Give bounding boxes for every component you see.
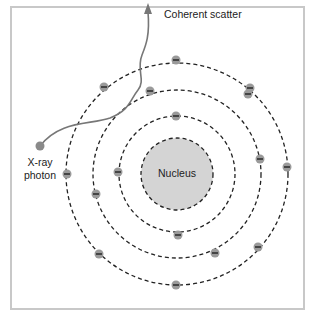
photon-label-line1: X-ray bbox=[22, 156, 58, 168]
electron-icon bbox=[100, 83, 109, 92]
electron-icon bbox=[95, 250, 104, 259]
electron-icon bbox=[246, 84, 255, 93]
scatter-label: Coherent scatter bbox=[164, 8, 242, 20]
electron-icon bbox=[92, 190, 101, 199]
photon-label-line2: photon bbox=[18, 169, 62, 181]
electron-icon bbox=[254, 243, 263, 252]
nucleus-label: Nucleus bbox=[150, 167, 204, 179]
electron-icon bbox=[172, 56, 181, 65]
electron-icon bbox=[283, 163, 292, 172]
electron-icon bbox=[211, 249, 220, 258]
electron-icon bbox=[63, 170, 72, 179]
electron-icon bbox=[256, 155, 265, 164]
electron-icon bbox=[146, 87, 155, 96]
photon-dot bbox=[36, 142, 45, 151]
electron-icon bbox=[174, 231, 183, 240]
electron-icon bbox=[172, 281, 181, 290]
electron-icon bbox=[114, 168, 123, 177]
electron-icon bbox=[172, 112, 181, 121]
